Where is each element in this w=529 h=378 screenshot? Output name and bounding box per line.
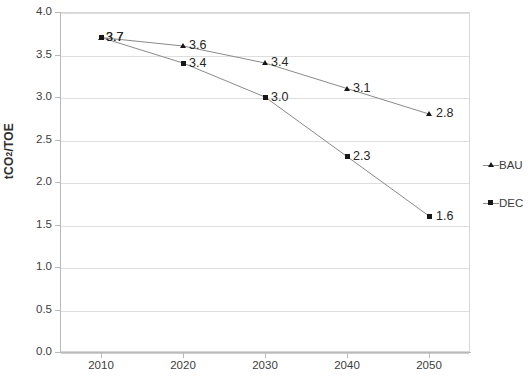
legend-marker-triangle-icon (483, 160, 499, 172)
x-axis-tick (265, 353, 266, 358)
data-point-marker-dec (345, 154, 350, 159)
y-axis-tick-label: 2.5 (12, 134, 52, 146)
gridline (61, 13, 469, 14)
y-axis-tick (55, 182, 60, 183)
y-axis-tick-label: 2.0 (12, 176, 52, 188)
gridline (61, 226, 469, 227)
y-axis-tick (55, 310, 60, 311)
gridline (61, 268, 469, 269)
x-axis-tick-label: 2040 (317, 360, 377, 372)
legend-label-bau: BAU (499, 160, 523, 172)
data-point-marker-dec (181, 61, 186, 66)
y-axis-tick (55, 225, 60, 226)
gridline (61, 56, 469, 57)
y-axis-tick-label: 3.0 (12, 91, 52, 103)
data-label-dec: 3.4 (189, 57, 206, 70)
data-point-marker-bau (262, 60, 268, 65)
data-label-bau: 2.8 (436, 107, 453, 120)
gridline (61, 183, 469, 184)
x-axis-tick (183, 353, 184, 358)
y-axis-tick (55, 140, 60, 141)
legend-entry-bau[interactable]: BAU (483, 160, 529, 198)
data-point-marker-bau (426, 111, 432, 116)
y-axis-tick (55, 352, 60, 353)
data-label-dec: 1.6 (436, 210, 453, 223)
data-label-bau: 3.6 (189, 39, 206, 52)
data-label-bau: 3.1 (353, 82, 370, 95)
y-axis-tick-label: 3.5 (12, 49, 52, 61)
line-chart: tCO2/TOE 0.00.51.01.52.02.53.03.54.02010… (0, 0, 529, 378)
y-axis-tick (55, 97, 60, 98)
y-axis-tick (55, 12, 60, 13)
y-axis-tick-label: 4.0 (12, 6, 52, 18)
data-point-marker-dec (263, 95, 268, 100)
y-axis-tick-label: 1.0 (12, 261, 52, 273)
x-axis-tick-label: 2030 (235, 360, 295, 372)
y-axis-line (60, 12, 61, 353)
x-axis-tick (347, 353, 348, 358)
legend-entry-dec[interactable]: DEC (483, 198, 529, 236)
x-axis-tick-label: 2050 (399, 360, 459, 372)
y-axis-tick-label: 1.5 (12, 219, 52, 231)
data-label-dec: 2.3 (353, 150, 370, 163)
x-axis-tick-label: 2020 (153, 360, 213, 372)
y-axis-tick (55, 267, 60, 268)
gridline (61, 141, 469, 142)
y-axis-title-subscript: 2 (4, 152, 14, 157)
y-axis-tick (55, 55, 60, 56)
y-axis-tick-label: 0.5 (12, 304, 52, 316)
data-point-marker-dec (427, 214, 432, 219)
y-axis-tick-label: 0.0 (12, 346, 52, 358)
y-axis-title: tCO2/TOE (2, 123, 20, 179)
legend-marker-square-icon (483, 198, 499, 210)
legend: BAU DEC (483, 160, 529, 236)
data-label-bau: 3.4 (271, 56, 288, 69)
data-label-dec: 3.0 (271, 91, 288, 104)
x-axis-tick (101, 353, 102, 358)
data-point-marker-bau (180, 43, 186, 48)
data-point-marker-bau (344, 86, 350, 91)
x-axis-tick (429, 353, 430, 358)
legend-label-dec: DEC (499, 198, 523, 210)
data-point-marker-dec (99, 35, 104, 40)
data-label-dec: 3.7 (106, 31, 123, 44)
x-axis-tick-label: 2010 (71, 360, 131, 372)
gridline (61, 311, 469, 312)
